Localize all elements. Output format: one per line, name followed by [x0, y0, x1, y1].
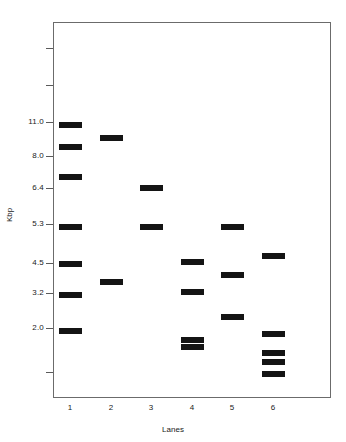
y-axis-tick-label: 11.0 — [2, 118, 44, 126]
gel-band — [59, 292, 82, 298]
gel-band — [59, 122, 82, 128]
y-axis-tick-label-holder: 8.0 — [0, 152, 44, 160]
y-axis-minor-tick — [46, 372, 53, 373]
y-axis-tick — [46, 328, 53, 329]
y-axis-tick-label-holder: 6.4 — [0, 184, 44, 192]
gel-band — [59, 261, 82, 267]
gel-band — [181, 259, 204, 265]
y-axis-tick-label: 8.0 — [2, 152, 44, 160]
y-axis-minor-tick — [46, 48, 53, 49]
x-axis-tick-label: 6 — [261, 403, 285, 412]
y-axis-tick-label: 6.4 — [2, 184, 44, 192]
y-axis-tick-label-holder: 11.0 — [0, 118, 44, 126]
gel-band — [262, 350, 285, 356]
y-axis-tick — [46, 224, 53, 225]
y-axis-tick — [46, 188, 53, 189]
gel-band — [140, 224, 163, 230]
gel-band — [100, 135, 123, 141]
gel-band — [221, 314, 244, 320]
y-axis-tick — [46, 293, 53, 294]
gel-band — [181, 337, 204, 343]
y-axis-tick-label: 2.0 — [2, 324, 44, 332]
gel-band — [59, 144, 82, 150]
x-axis-title: Lanes — [0, 425, 346, 434]
x-axis-tick-label: 2 — [99, 403, 123, 412]
gel-band — [262, 371, 285, 377]
y-axis-tick-label: 4.5 — [2, 259, 44, 267]
gel-band — [262, 253, 285, 259]
gel-band — [181, 289, 204, 295]
gel-band — [59, 224, 82, 230]
x-axis-tick-label: 3 — [139, 403, 163, 412]
x-axis-tick-label: 4 — [180, 403, 204, 412]
y-axis-tick — [46, 122, 53, 123]
y-axis-tick — [46, 263, 53, 264]
y-axis-tick-label: 5.3 — [2, 220, 44, 228]
y-axis-tick-label-holder: 2.0 — [0, 324, 44, 332]
y-axis-tick — [46, 156, 53, 157]
x-axis-tick-label: 1 — [58, 403, 82, 412]
gel-band — [100, 279, 123, 285]
gel-band — [262, 359, 285, 365]
gel-band — [221, 272, 244, 278]
x-axis-tick-label: 5 — [220, 403, 244, 412]
y-axis-tick-label: 3.2 — [2, 289, 44, 297]
y-axis-tick-label-holder: 3.2 — [0, 289, 44, 297]
y-axis-minor-tick — [46, 85, 53, 86]
gel-band — [59, 328, 82, 334]
gel-band — [221, 224, 244, 230]
gel-band — [181, 344, 204, 350]
y-axis-tick-label-holder: 4.5 — [0, 259, 44, 267]
gel-band — [262, 331, 285, 337]
gel-band — [140, 185, 163, 191]
gel-electrophoresis-figure: Kbp 11.08.06.45.34.53.22.0123456 Lanes — [0, 0, 346, 442]
y-axis-tick-label-holder: 5.3 — [0, 220, 44, 228]
gel-band — [59, 174, 82, 180]
